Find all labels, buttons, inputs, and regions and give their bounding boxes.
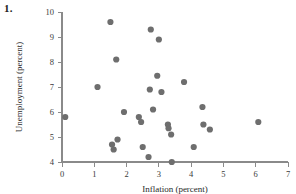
x-tick-label: 2 [124, 169, 128, 179]
data-point [199, 104, 205, 110]
data-point [156, 36, 162, 42]
data-point [150, 106, 156, 112]
x-tick-label: 1 [92, 169, 96, 179]
x-tick-label: 7 [286, 169, 290, 179]
data-point [140, 144, 146, 150]
data-point [107, 19, 113, 25]
data-point [200, 121, 206, 127]
data-point [113, 56, 119, 62]
data-point [111, 146, 117, 152]
x-axis-ticks: 01234567 [60, 162, 290, 179]
x-tick-label: 3 [157, 169, 161, 179]
data-point [114, 136, 120, 142]
y-tick-label: 8 [50, 57, 54, 67]
data-points-group [62, 19, 261, 165]
data-point [145, 154, 151, 160]
scatter-plot-canvas: 01234567 45678910 Inflation (percent)Une… [0, 0, 296, 194]
x-tick-label: 5 [221, 169, 225, 179]
y-axis-ticks: 45678910 [46, 7, 63, 167]
data-point [121, 109, 127, 115]
y-tick-label: 4 [50, 157, 55, 167]
data-point [255, 119, 261, 125]
data-point [94, 84, 100, 90]
data-point [165, 125, 171, 131]
y-tick-label: 10 [46, 7, 55, 17]
data-point [154, 73, 160, 79]
data-point [147, 86, 153, 92]
data-point [148, 26, 154, 32]
y-tick-label: 6 [50, 107, 54, 117]
y-tick-label: 5 [50, 132, 54, 142]
scatter-plot-figure: 1. 01234567 45678910 Inflation (percent)… [0, 0, 296, 194]
y-axis-title: Unemployment (percent) [14, 42, 24, 133]
data-point [138, 119, 144, 125]
y-tick-label: 7 [50, 82, 54, 92]
data-point [62, 114, 68, 120]
x-tick-label: 4 [189, 169, 194, 179]
x-tick-label: 0 [60, 169, 64, 179]
data-point [181, 79, 187, 85]
x-tick-label: 6 [254, 169, 258, 179]
data-point [168, 131, 174, 137]
data-point [191, 144, 197, 150]
axis-titles-group: Inflation (percent)Unemployment (percent… [14, 42, 208, 194]
y-tick-label: 9 [50, 32, 54, 42]
data-point [158, 89, 164, 95]
data-point [207, 126, 213, 132]
x-axis-title: Inflation (percent) [142, 184, 208, 194]
data-point [169, 159, 175, 165]
